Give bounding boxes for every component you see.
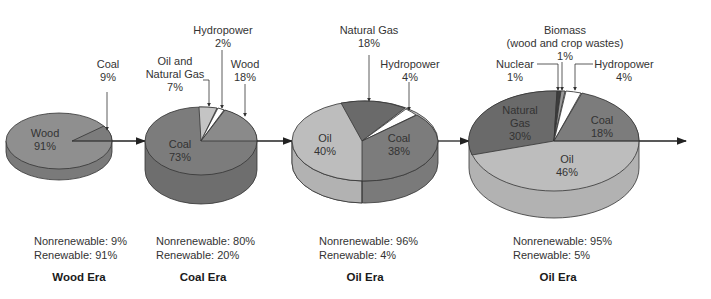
renewable-stat: Renewable: 4% — [319, 248, 418, 262]
slice-label-2: Natural Gas — [144, 68, 206, 81]
slice-label: Natural — [500, 104, 540, 117]
slice-value: 18% — [230, 71, 260, 84]
label-oil-era-1-oil: Oil 40% — [310, 132, 340, 158]
label-wood-era-wood: Wood 91% — [30, 127, 60, 153]
nonrenewable-stat: Nonrenewable: 95% — [513, 234, 612, 248]
slice-value: 73% — [160, 151, 200, 164]
renewable-stat: Renewable: 5% — [513, 248, 612, 262]
slice-value: 46% — [552, 166, 582, 179]
slice-label: Wood — [230, 58, 260, 71]
era-title-wood: Wood Era — [34, 271, 124, 283]
slice-value: 40% — [310, 145, 340, 158]
renewable-stat: Renewable: 20% — [156, 248, 255, 262]
label-oil-era-1-hydropower: Hydropower 4% — [380, 58, 440, 84]
slice-label: Coal — [93, 58, 123, 71]
slice-label: Coal — [587, 114, 617, 127]
slice-label: Oil — [552, 153, 582, 166]
label-coal-era-oil-gas: Oil and Natural Gas 7% — [144, 55, 206, 94]
slice-value: 18% — [587, 127, 617, 140]
label-oil-era-2-coal: Coal 18% — [587, 114, 617, 140]
slice-value: 2% — [193, 37, 253, 50]
label-oil-era-2-natural-gas: Natural Gas 30% — [500, 104, 540, 143]
stats-oil-era-2: Nonrenewable: 95% Renewable: 5% — [513, 234, 612, 262]
stats-wood-era: Nonrenewable: 9% Renewable: 91% — [34, 234, 127, 262]
label-oil-era-2-hydropower: Hydropower 4% — [594, 58, 654, 84]
label-oil-era-1-coal: Coal 38% — [384, 132, 414, 158]
era-title-coal: Coal Era — [158, 271, 248, 283]
era-title-oil-1: Oil Era — [325, 271, 405, 283]
slice-label: Natural Gas — [338, 24, 400, 37]
slice-label: Wood — [30, 127, 60, 140]
label-oil-era-2-oil: Oil 46% — [552, 153, 582, 179]
stats-oil-era-1: Nonrenewable: 96% Renewable: 4% — [319, 234, 418, 262]
label-coal-era-coal: Coal 73% — [160, 138, 200, 164]
slice-value: 7% — [144, 81, 206, 94]
slice-value: 9% — [93, 71, 123, 84]
slice-label: Hydropower — [594, 58, 654, 71]
nonrenewable-stat: Nonrenewable: 9% — [34, 234, 127, 248]
slice-label: Hydropower — [380, 58, 440, 71]
nonrenewable-stat: Nonrenewable: 80% — [156, 234, 255, 248]
era-title-oil-2: Oil Era — [518, 271, 598, 283]
label-coal-era-hydropower: Hydropower 2% — [193, 24, 253, 50]
slice-value: 30% — [500, 130, 540, 143]
slice-value: 1% — [495, 71, 535, 84]
slice-label: Oil and — [144, 55, 206, 68]
slice-label-2: Gas — [500, 117, 540, 130]
nonrenewable-stat: Nonrenewable: 96% — [319, 234, 418, 248]
label-wood-era-coal: Coal 9% — [93, 58, 123, 84]
slice-label: Hydropower — [193, 24, 253, 37]
stats-coal-era: Nonrenewable: 80% Renewable: 20% — [156, 234, 255, 262]
slice-value: 18% — [338, 37, 400, 50]
slice-value: 4% — [380, 71, 440, 84]
renewable-stat: Renewable: 91% — [34, 248, 127, 262]
slice-label: Oil — [310, 132, 340, 145]
slice-label: Biomass — [505, 24, 625, 37]
slice-label: Coal — [160, 138, 200, 151]
slice-label-2: (wood and crop wastes) — [505, 37, 625, 50]
slice-value: 4% — [594, 71, 654, 84]
slice-label: Coal — [384, 132, 414, 145]
label-oil-era-1-natural-gas: Natural Gas 18% — [338, 24, 400, 50]
slice-value: 38% — [384, 145, 414, 158]
slice-value: 91% — [30, 140, 60, 153]
label-coal-era-wood: Wood 18% — [230, 58, 260, 84]
